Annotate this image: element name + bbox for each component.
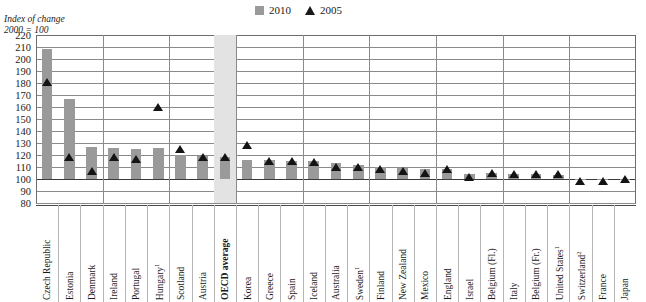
category-cell: New Zealand	[392, 205, 414, 302]
y-tick-label-140: 140	[15, 126, 31, 137]
category-cell: Portugal	[125, 205, 147, 302]
category-label: Japan	[620, 278, 630, 300]
category-label: England	[443, 268, 453, 300]
category-label: Korea	[243, 277, 253, 300]
category-label: Sweden1	[353, 267, 365, 300]
category-cell: Greece	[258, 205, 280, 302]
category-label: United States1	[553, 246, 565, 300]
triangle-marker-icon	[305, 6, 315, 15]
y-tick-label-80: 80	[21, 198, 32, 209]
category-cell: Estonia	[58, 205, 80, 302]
category-label: Scotland	[176, 267, 186, 300]
y-tick-label-190: 190	[15, 66, 31, 77]
category-label: Denmark	[87, 265, 97, 300]
category-label: Estonia	[65, 272, 75, 301]
gridline-80	[36, 203, 636, 204]
category-cell: Finland	[369, 205, 391, 302]
legend-label-2005: 2005	[320, 4, 342, 16]
category-label: Israel	[465, 279, 475, 300]
y-axis-labels: 2202102001901801701601501401301201101009…	[0, 0, 36, 302]
category-label: Austria	[198, 272, 208, 300]
y-tick-label-100: 100	[15, 174, 31, 185]
y-tick-label-170: 170	[15, 90, 31, 101]
category-cell: Israel	[458, 205, 480, 302]
y-tick-label-180: 180	[15, 78, 31, 89]
legend-item-2005: 2005	[305, 4, 342, 16]
y-tick-label-210: 210	[15, 42, 31, 53]
category-label: Italy	[509, 283, 519, 300]
category-label: Spain	[287, 278, 297, 300]
square-marker-icon	[255, 6, 264, 15]
category-cell: England	[436, 205, 458, 302]
category-cell: Iceland	[303, 205, 325, 302]
plot-frame	[36, 35, 636, 203]
category-cell: Belgium (Fr.)	[525, 205, 547, 302]
y-tick-label-150: 150	[15, 114, 31, 125]
category-cell: Korea	[236, 205, 258, 302]
category-cell: Spain	[280, 205, 302, 302]
category-cell: Japan	[614, 205, 636, 302]
category-label: Portugal	[131, 268, 141, 300]
category-cell: Ireland	[103, 205, 125, 302]
category-label: Ireland	[109, 273, 119, 300]
category-label: Czech Republic	[42, 240, 52, 300]
legend-label-2010: 2010	[269, 4, 291, 16]
category-cell: Mexico	[414, 205, 436, 302]
category-label: New Zealand	[398, 249, 408, 300]
category-cell: Hungary1	[147, 205, 169, 302]
category-cell: United States1	[547, 205, 569, 302]
category-cell: Denmark	[80, 205, 102, 302]
plot-area	[36, 35, 636, 203]
category-cell: Switzerland2	[569, 205, 591, 302]
category-label: Greece	[265, 273, 275, 300]
y-tick-label-220: 220	[15, 30, 31, 41]
category-label: Belgium (Fr.)	[531, 248, 541, 300]
y-tick-label-90: 90	[21, 186, 32, 197]
category-cell: Sweden1	[347, 205, 369, 302]
category-label: Switzerland2	[575, 251, 587, 300]
category-label: France	[598, 274, 608, 300]
y-tick-label-120: 120	[15, 150, 31, 161]
legend-item-2010: 2010	[255, 4, 291, 16]
category-cell: OECD average	[214, 205, 236, 302]
chart-legend: 2010 2005	[255, 4, 342, 16]
category-cell: Czech Republic	[36, 205, 58, 302]
category-cell: Italy	[503, 205, 525, 302]
category-cell: France	[592, 205, 614, 302]
category-label: Belgium (Fl.)	[487, 248, 497, 300]
category-label: Finland	[376, 271, 386, 300]
y-tick-label-130: 130	[15, 138, 31, 149]
y-tick-label-160: 160	[15, 102, 31, 113]
category-labels: Czech RepublicEstoniaDenmarkIrelandPortu…	[36, 205, 636, 302]
category-cell: Belgium (Fl.)	[480, 205, 502, 302]
chart-root: Index of change 2000 = 100 2010 2005 220…	[0, 0, 646, 302]
category-label: Hungary1	[153, 264, 165, 301]
category-label: Iceland	[309, 272, 319, 300]
y-tick-label-200: 200	[15, 54, 31, 65]
category-label: Australia	[331, 265, 341, 300]
category-cell: Scotland	[169, 205, 191, 302]
category-label: Mexico	[420, 271, 430, 300]
category-label: OECD average	[220, 239, 230, 300]
category-cell: Austria	[192, 205, 214, 302]
y-tick-label-110: 110	[16, 162, 31, 173]
category-cell: Australia	[325, 205, 347, 302]
